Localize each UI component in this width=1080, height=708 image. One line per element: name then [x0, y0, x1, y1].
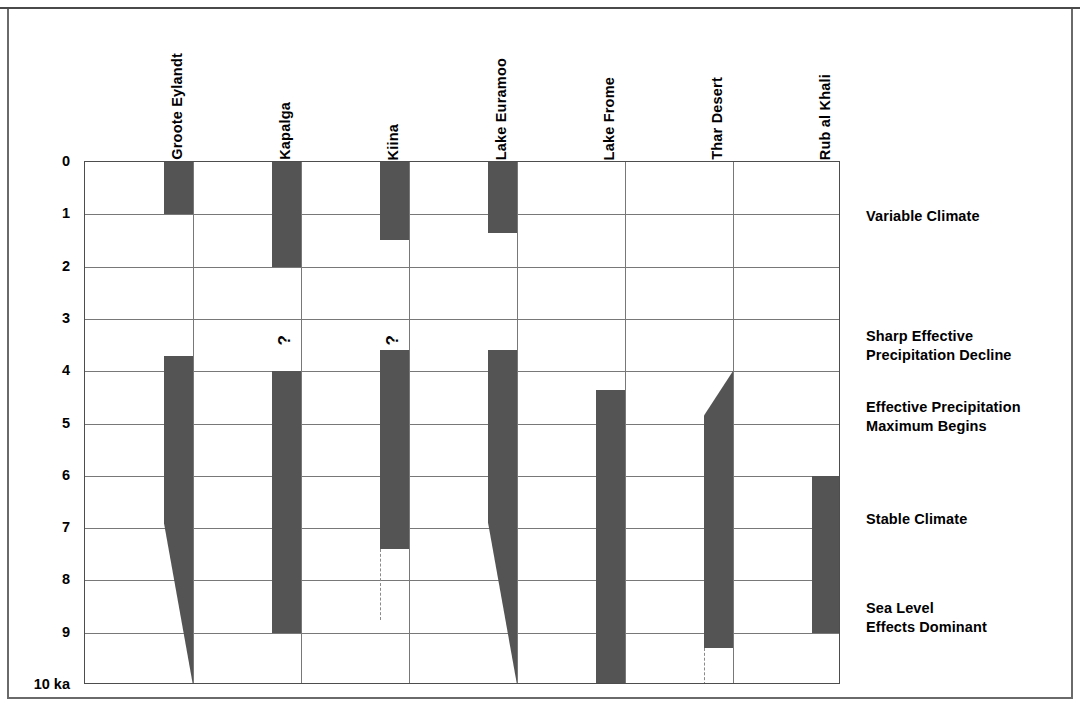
bar-segment [596, 390, 625, 685]
chart-annotation: Sea Level Effects Dominant [866, 599, 987, 637]
column-header-groote-eylandt: Groote Eylandt [165, 12, 191, 160]
column-header-lake-frome: Lake Frome [597, 12, 623, 160]
dashed-extension-line [380, 549, 381, 620]
y-axis-tick-label: 6 [62, 467, 70, 483]
bar-segment [488, 162, 517, 233]
bar-segment [272, 371, 301, 633]
gridline-vertical [625, 162, 626, 683]
dashed-extension-line [704, 648, 705, 684]
chart-annotation: Stable Climate [866, 510, 967, 529]
gridline-vertical [733, 162, 734, 683]
bar-segment-tapered [164, 356, 193, 685]
gridline-vertical [301, 162, 302, 683]
annotation-column: Variable ClimateSharp Effective Precipit… [866, 161, 1076, 684]
y-axis-tick-label: 1 [62, 205, 70, 221]
gridline-horizontal [85, 214, 839, 215]
column-header-label: Kiina [386, 124, 401, 160]
bar-segment-tapered [488, 350, 517, 684]
gridline-vertical [409, 162, 410, 683]
column-header-rub-al-khali: Rub al Khali [813, 12, 839, 160]
y-axis-tick-label: 3 [62, 310, 70, 326]
bar-segment [812, 476, 840, 633]
figure-frame-bottom [7, 697, 1073, 699]
column-header-kiina: Kiina [381, 12, 407, 160]
y-axis: 012345678910 ka [0, 150, 80, 700]
column-header-label: Groote Eylandt [170, 53, 185, 160]
gridline-vertical [517, 162, 518, 683]
bar-segment [380, 350, 409, 549]
column-header-label: Lake Euramoo [494, 58, 509, 160]
chart-annotation: Effective Precipitation Maximum Begins [866, 398, 1021, 436]
y-axis-tick-label: 7 [62, 519, 70, 535]
gridline-vertical [193, 162, 194, 683]
column-header-lake-euramoo: Lake Euramoo [489, 12, 515, 160]
bar-segment [164, 162, 193, 214]
uncertainty-question-mark: ? [276, 335, 293, 345]
bar-segment-tapered [704, 371, 733, 648]
column-header-kapalga: Kapalga [273, 12, 299, 160]
uncertainty-question-mark: ? [384, 335, 401, 345]
column-header-label: Thar Desert [710, 77, 725, 160]
y-axis-tick-label: 10 ka [34, 676, 70, 692]
y-axis-tick-label: 8 [62, 571, 70, 587]
climate-chronology-figure: Groote EylandtKapalgaKiinaLake EuramooLa… [0, 0, 1080, 708]
plot-area: ?? [84, 161, 840, 684]
bar-segment [380, 162, 409, 240]
gridline-horizontal [85, 267, 839, 268]
y-axis-tick-label: 0 [62, 153, 70, 169]
bar-segment [272, 162, 301, 267]
y-axis-tick-label: 9 [62, 624, 70, 640]
chart-annotation: Variable Climate [866, 207, 980, 226]
y-axis-tick-label: 5 [62, 415, 70, 431]
column-header-label: Kapalga [278, 102, 293, 160]
y-axis-tick-label: 4 [62, 362, 70, 378]
column-header-row: Groote EylandtKapalgaKiinaLake EuramooLa… [84, 8, 840, 160]
column-header-thar-desert: Thar Desert [705, 12, 731, 160]
gridline-horizontal [85, 319, 839, 320]
column-header-label: Lake Frome [602, 77, 617, 160]
y-axis-tick-label: 2 [62, 258, 70, 274]
chart-annotation: Sharp Effective Precipitation Decline [866, 327, 1012, 365]
column-header-label: Rub al Khali [818, 74, 833, 160]
